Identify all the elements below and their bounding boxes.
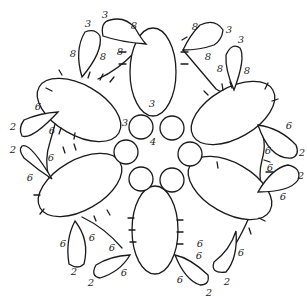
stitch-count-label: 3 bbox=[226, 25, 232, 35]
stitch-count-label: 3 bbox=[85, 19, 91, 29]
stitch-count-label: 8 bbox=[100, 52, 106, 62]
stitch-count-label: 6 bbox=[286, 121, 292, 131]
stitch-count-label: 6 bbox=[60, 239, 66, 249]
stitch-count-label: 6 bbox=[196, 251, 202, 261]
stitch-count-label: 6 bbox=[35, 102, 41, 112]
stitch-count-label: 6 bbox=[49, 126, 55, 136]
center-label-3-top: 3 bbox=[149, 99, 155, 109]
stitch-count-label: 2 bbox=[206, 288, 212, 298]
stitch-count-label: 2 bbox=[88, 278, 94, 288]
stitch-count-label: 6 bbox=[280, 192, 286, 202]
stitch-count-label: 8 bbox=[131, 21, 137, 31]
stitch-count-label: 3 bbox=[238, 35, 244, 45]
stitch-count-label: 2 bbox=[298, 171, 304, 181]
stitch-count-label: 8 bbox=[70, 49, 76, 59]
stitch-count-label: 6 bbox=[238, 248, 244, 258]
stitch-count-label: 8 bbox=[117, 47, 123, 57]
center-ring-4 bbox=[160, 168, 184, 192]
stitch-count-label: 2 bbox=[299, 148, 305, 158]
stitch-count-label: 6 bbox=[197, 239, 203, 249]
center-ring-2 bbox=[160, 116, 184, 140]
stitch-count-label: 6 bbox=[177, 275, 183, 285]
center-label-4: 4 bbox=[150, 137, 156, 147]
stitch-count-label: 2 bbox=[10, 122, 16, 132]
stitch-count-label: 6 bbox=[89, 233, 95, 243]
stitch-count-label: 6 bbox=[121, 268, 127, 278]
stitch-count-label: 6 bbox=[265, 146, 271, 156]
petal-upper-left bbox=[27, 65, 132, 154]
diagram-drawing bbox=[0, 0, 307, 299]
stitch-count-label: 6 bbox=[109, 243, 115, 253]
tatting-diagram: 3 3 4 3838888383886266266262666662626662… bbox=[0, 0, 307, 299]
stitch-count-label: 8 bbox=[192, 22, 198, 32]
stitch-count-label: 2 bbox=[10, 145, 16, 155]
stitch-count-label: 6 bbox=[27, 173, 33, 183]
center-label-3-left: 3 bbox=[122, 118, 128, 128]
center-ring-5 bbox=[129, 167, 153, 191]
stitch-count-label: 8 bbox=[205, 52, 211, 62]
stitch-count-label: 8 bbox=[217, 64, 223, 74]
center-ring-6 bbox=[114, 140, 138, 164]
stitch-count-label: 6 bbox=[48, 153, 54, 163]
stitch-count-label: 8 bbox=[244, 66, 250, 76]
stitch-count-label: 6 bbox=[267, 163, 273, 173]
center-ring-3 bbox=[178, 142, 202, 166]
stitch-count-label: 2 bbox=[224, 277, 230, 287]
stitch-count-label: 3 bbox=[102, 10, 108, 20]
stitch-count-label: 2 bbox=[71, 267, 77, 277]
petal-bottom bbox=[132, 186, 178, 274]
